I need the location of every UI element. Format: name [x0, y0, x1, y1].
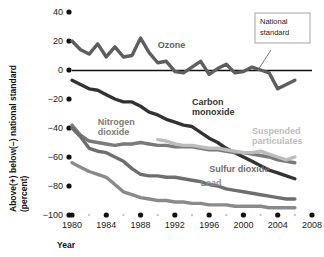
x-tick-dot	[69, 212, 74, 217]
series-label-suspended-particulates: particulates	[252, 136, 303, 146]
y-tick-label: −100	[43, 210, 63, 220]
y-axis-title-line2: (percent)	[19, 175, 29, 212]
y-tick-label: −40	[48, 123, 63, 133]
x-tick-dot	[275, 212, 280, 217]
x-tick-dot	[241, 212, 246, 217]
chart-canvas: Above(+) below(−) national standard (per…	[0, 0, 324, 257]
x-minor-dot	[294, 214, 296, 216]
y-axis-title-line1: Above(+) below(−) national standard	[8, 65, 18, 212]
x-tick-label: 2004	[268, 220, 288, 230]
y-tick-dot	[66, 9, 71, 14]
series-label-sulfur-dioxide: Sulfur dioxide	[209, 164, 269, 174]
x-tick-dot	[138, 212, 143, 217]
air-quality-trend-chart: Above(+) below(−) national standard (per…	[0, 0, 324, 257]
y-tick-dot	[66, 96, 71, 101]
x-tick-dot	[172, 212, 177, 217]
series-label-nitrogen-dioxide: dioxide	[98, 127, 130, 137]
x-axis-minor-dots	[88, 214, 296, 216]
y-tick-dot	[66, 183, 71, 188]
series-label-nitrogen-dioxide: Nitrogen	[98, 117, 135, 127]
x-minor-dot	[259, 214, 261, 216]
y-tick-label: 40	[53, 7, 63, 17]
x-minor-dot	[88, 214, 90, 216]
x-axis-title: Year	[57, 240, 76, 250]
x-tick-label: 2008	[302, 220, 322, 230]
callout-text-line1: National	[260, 17, 288, 26]
x-minor-dot	[157, 214, 159, 216]
x-tick-dot	[104, 212, 109, 217]
y-tick-label: −80	[48, 181, 63, 191]
y-tick-label: −60	[48, 152, 63, 162]
y-axis-title: Above(+) below(−) national standard (per…	[8, 65, 29, 212]
series-label-suspended-particulates: Suspended	[252, 126, 301, 136]
x-tick-label: 1980	[62, 220, 82, 230]
y-tick-dot	[66, 67, 71, 72]
y-tick-label: 20	[53, 36, 63, 46]
x-tick-label: 1992	[165, 220, 185, 230]
x-minor-dot	[191, 214, 193, 216]
series-label-lead: Lead	[201, 178, 222, 188]
x-tick-label: 1996	[199, 220, 219, 230]
series-label-ozone: Ozone	[158, 40, 186, 50]
x-tick-dot	[207, 212, 212, 217]
series-label-carbon-monoxide: monoxide	[192, 107, 235, 117]
callout-leader-line	[258, 50, 271, 70]
national-standard-callout: National standard	[255, 13, 310, 70]
y-tick-label: −20	[48, 94, 63, 104]
x-tick-label: 1988	[131, 220, 151, 230]
x-minor-dot	[225, 214, 227, 216]
y-axis-ticks: 40200−20−40−60−80−100	[43, 7, 72, 220]
series-label-carbon-monoxide: Carbon	[192, 97, 224, 107]
y-tick-dot	[66, 154, 71, 159]
x-tick-label: 2000	[233, 220, 253, 230]
x-tick-label: 1984	[96, 220, 116, 230]
y-tick-label: 0	[58, 65, 63, 75]
x-minor-dot	[122, 214, 124, 216]
x-tick-dot	[309, 212, 314, 217]
callout-text-line2: standard	[260, 28, 289, 37]
